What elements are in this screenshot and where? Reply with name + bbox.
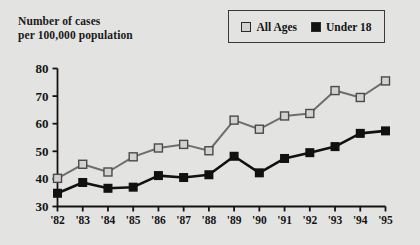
data-point-marker (281, 155, 289, 163)
x-tick-label: '89 (227, 214, 242, 226)
y-tick-label: 80 (36, 61, 49, 76)
x-tick-label: '82 (50, 214, 65, 226)
data-point-marker (79, 179, 87, 187)
data-point-marker (331, 143, 339, 151)
data-point-marker (205, 171, 213, 179)
data-point-marker (129, 183, 137, 191)
x-tick-label: '94 (353, 214, 368, 226)
data-point-marker (230, 116, 238, 124)
data-point-marker (104, 184, 112, 192)
x-tick-label: '95 (378, 214, 393, 226)
x-tick-label: '90 (252, 214, 267, 226)
y-tick-label: 50 (36, 144, 49, 159)
data-point-marker (154, 144, 162, 152)
data-point-marker (155, 172, 163, 180)
y-tick-labels: 304050607080 (36, 61, 49, 214)
data-point-marker (104, 168, 112, 176)
data-point-marker (255, 125, 263, 133)
data-point-marker (79, 160, 87, 168)
y-tick-label: 70 (36, 89, 49, 104)
x-tick-label: '92 (302, 214, 317, 226)
data-point-marker (382, 127, 390, 135)
chart-figure: Number of cases per 100,000 population A… (0, 0, 420, 245)
y-tick-label: 60 (36, 116, 49, 131)
x-tick-label: '84 (101, 214, 116, 226)
data-point-marker (331, 87, 339, 95)
data-point-marker (230, 152, 238, 160)
data-point-marker (205, 147, 213, 155)
data-point-marker (180, 140, 188, 148)
x-tick-label: '87 (176, 214, 191, 226)
data-point-marker (382, 77, 390, 85)
y-tick-label: 30 (36, 199, 49, 214)
data-point-marker (306, 109, 314, 117)
data-point-marker (356, 93, 364, 101)
data-point-marker (54, 189, 62, 197)
x-tick-label: '88 (202, 214, 217, 226)
x-tick-label: '91 (277, 214, 292, 226)
plot-area: 304050607080 '82'83'84'85'86'87'88'89'90… (0, 0, 420, 245)
x-tick-labels: '82'83'84'85'86'87'88'89'90'91'92'93'94'… (50, 214, 393, 226)
x-tick-label: '83 (75, 214, 90, 226)
data-point-marker (180, 174, 188, 182)
data-point-marker (129, 153, 137, 161)
data-point-marker (306, 149, 314, 157)
x-tick-label: '85 (126, 214, 141, 226)
x-tick-label: '93 (328, 214, 343, 226)
data-point-marker (256, 169, 264, 177)
data-point-marker (356, 130, 364, 138)
x-tick-label: '86 (151, 214, 166, 226)
data-point-marker (281, 112, 289, 120)
data-point-marker (54, 174, 62, 182)
y-tick-label: 40 (36, 171, 49, 186)
series-under-18 (54, 127, 390, 197)
